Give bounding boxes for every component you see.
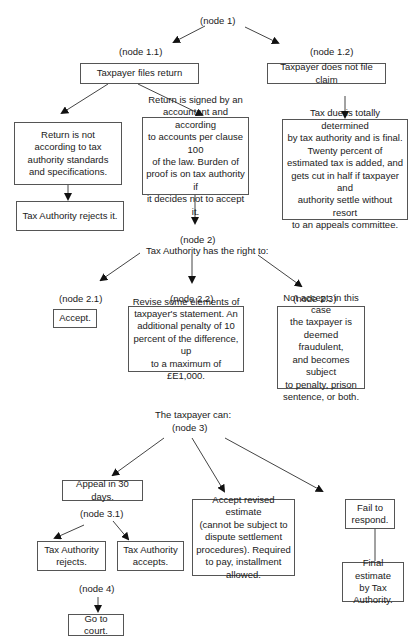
node-1-2-label: (node 1.2) xyxy=(310,46,353,58)
node-2-caption: Tax Authority has the right to: xyxy=(146,245,269,257)
not-accept-box: Not accept; in this case the taxpayer is… xyxy=(277,306,365,389)
node-2-1-label: (node 2.1) xyxy=(59,293,102,305)
node-3-1-label: (node 3.1) xyxy=(80,508,123,520)
tax-authority-accepts-box: Tax Authority accepts. xyxy=(117,541,184,571)
node-4-label: (node 4) xyxy=(79,583,114,595)
node-3-label: (node 3) xyxy=(172,422,207,434)
tax-authority-rejects-it-box: Tax Authority rejects it. xyxy=(16,201,124,231)
return-signed-by-accountant-box: Return is signed by an accountant and ac… xyxy=(142,117,249,195)
final-estimate-box: Final estimate by Tax Authority. xyxy=(342,562,404,602)
accept-revised-estimate-box: Accept revised estimate (cannot be subje… xyxy=(192,499,295,576)
fail-to-respond-box: Fail to respond. xyxy=(345,499,395,529)
cropped-header-text xyxy=(90,0,330,2)
revise-elements-box: Revise some elements of taxpayer's state… xyxy=(128,306,244,372)
return-not-according-box: Return is not according to tax authority… xyxy=(14,122,122,185)
go-to-court-box: Go to court. xyxy=(68,614,124,636)
tax-authority-rejects-box: Tax Authority rejects. xyxy=(37,541,106,571)
node-1-label: (node 1) xyxy=(200,15,235,27)
node-3-caption: The taxpayer can: xyxy=(155,409,231,421)
appeal-30-days-box: Appeal in 30 days. xyxy=(62,480,143,501)
taxpayer-files-return-box: Taxpayer files return xyxy=(80,63,199,84)
tax-due-determined-box: Tax due is totally determined by tax aut… xyxy=(282,119,408,220)
taxpayer-does-not-file-box: Taxpayer does not file claim xyxy=(267,63,386,84)
node-1-1-label: (node 1.1) xyxy=(119,46,162,58)
accept-box: Accept. xyxy=(53,309,97,328)
